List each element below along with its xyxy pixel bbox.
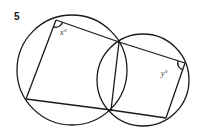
segment-cd [166,63,185,118]
segment-af [26,20,56,99]
small-circle [97,34,189,126]
angle-x-label: x° [59,28,68,37]
segment-de [111,110,166,118]
segment-bc [119,42,185,63]
intersection-point-bottom [110,109,112,111]
segment-fe [26,99,111,110]
circle-geometry-diagram: x° y° [0,0,198,135]
large-circle [17,15,127,125]
angle-y-label: y° [160,69,169,78]
intersection-point-top [118,41,120,43]
